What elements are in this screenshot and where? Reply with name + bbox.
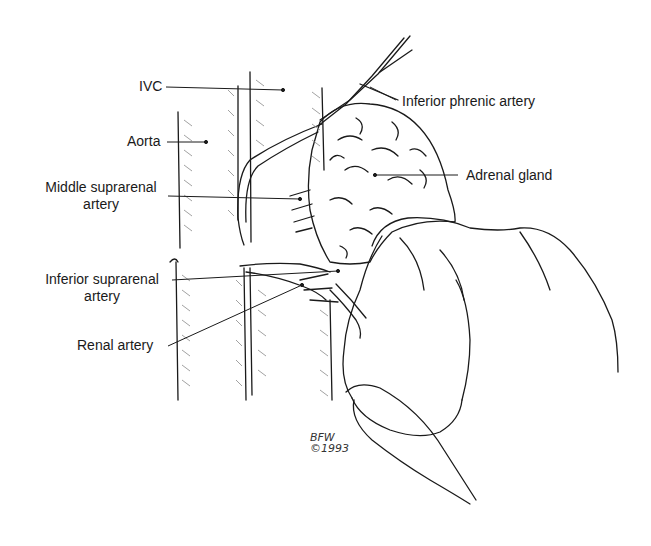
label-ivc: IVC — [139, 78, 162, 95]
artist-signature: BFW ©1993 — [310, 432, 349, 454]
label-inferior-suprarenal-line2: artery — [32, 288, 172, 305]
label-inferior-suprarenal-artery: Inferior suprarenal artery — [32, 271, 172, 305]
inferior-phrenic-artery-vessel — [238, 36, 412, 222]
label-renal-artery: Renal artery — [77, 337, 153, 354]
label-inferior-suprarenal-line1: Inferior suprarenal — [32, 271, 172, 288]
vessel-hatching — [182, 80, 328, 396]
label-aorta: Aorta — [127, 133, 160, 150]
label-adrenal-gland: Adrenal gland — [466, 167, 552, 184]
label-inferior-phrenic-artery: Inferior phrenic artery — [402, 93, 535, 110]
signature-year: ©1993 — [310, 443, 349, 454]
aorta-vessel — [170, 112, 180, 400]
label-middle-suprarenal-line1: Middle suprarenal — [36, 179, 166, 196]
hand-and-kidney — [343, 218, 618, 504]
label-middle-suprarenal-line2: artery — [36, 196, 166, 213]
label-middle-suprarenal-artery: Middle suprarenal artery — [36, 179, 166, 213]
adrenal-gland-shape — [308, 103, 455, 264]
